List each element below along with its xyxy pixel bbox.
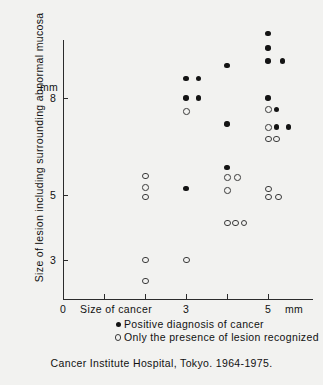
data-point [265, 186, 272, 193]
x-tick-label-5: 5 [254, 304, 282, 315]
data-point [265, 58, 270, 63]
filled-circle-icon [112, 322, 124, 327]
open-circle-icon [112, 334, 124, 340]
data-point [265, 124, 272, 131]
data-point [142, 194, 149, 201]
y-tick-5 [63, 195, 68, 196]
x-tick-3 [186, 294, 187, 299]
data-point [274, 107, 279, 112]
data-point [183, 257, 190, 264]
data-point [280, 58, 285, 63]
data-point [183, 76, 188, 81]
data-point [265, 194, 272, 201]
x-tick-4 [227, 294, 228, 299]
x-tick-0 [63, 294, 64, 299]
data-point [241, 220, 248, 227]
data-point [265, 31, 270, 36]
data-point [234, 174, 241, 181]
data-point [224, 220, 231, 227]
y-tick-3 [63, 260, 68, 261]
x-tick-1 [104, 294, 105, 299]
data-point [183, 108, 190, 115]
data-point [265, 136, 272, 143]
x-axis-unit-label: mm [285, 304, 303, 315]
x-tick-5 [268, 294, 269, 299]
data-point [224, 121, 229, 126]
data-point [274, 124, 279, 129]
y-tick-label-5: 5 [40, 190, 56, 201]
x-tick-label-3: 3 [172, 304, 200, 315]
data-point [142, 184, 149, 191]
x-tick-2 [145, 294, 146, 299]
y-tick-label-8: 8 [40, 93, 56, 104]
chart-figure: mm mm Size of cancer Size of lesion incl… [0, 0, 323, 385]
y-axis-title: Size of lesion including surrounding abn… [34, 32, 45, 282]
data-point [224, 174, 231, 181]
legend-label: Only the presence of lesion recognized [124, 331, 319, 344]
y-tick-8 [63, 98, 68, 99]
legend-item: Only the presence of lesion recognized [112, 331, 319, 344]
y-tick-label-3: 3 [40, 255, 56, 266]
x-axis-title: Size of cancer [80, 304, 152, 315]
data-point [142, 173, 149, 180]
data-point [196, 76, 201, 81]
data-point [232, 220, 239, 227]
data-point [196, 95, 201, 100]
data-point [265, 95, 270, 100]
data-point [273, 136, 280, 143]
data-point [224, 187, 231, 194]
data-point [265, 45, 270, 50]
data-point [183, 186, 188, 191]
figure-caption: Cancer Institute Hospital, Tokyo. 1964-1… [0, 358, 323, 369]
data-point [286, 124, 291, 129]
data-point [275, 194, 282, 201]
data-point [224, 63, 229, 68]
data-point [183, 95, 188, 100]
chart-legend: Positive diagnosis of cancerOnly the pre… [112, 318, 319, 344]
data-point [142, 257, 149, 264]
data-point [142, 278, 149, 285]
legend-label: Positive diagnosis of cancer [124, 318, 264, 331]
data-point [265, 106, 272, 113]
legend-item: Positive diagnosis of cancer [112, 318, 319, 331]
x-axis-line [63, 299, 313, 300]
data-point [224, 165, 229, 170]
x-tick-label-0: 0 [49, 304, 77, 315]
